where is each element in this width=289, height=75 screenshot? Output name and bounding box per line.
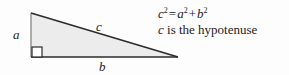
label-side-a: a: [13, 28, 20, 41]
theorem-text-block: c2=a2+b2 c is the hypotenuse: [158, 6, 289, 38]
equation-b-exponent: 2: [203, 6, 207, 15]
label-side-b: b: [99, 60, 106, 73]
pythagorean-theorem-figure: a b c c2=a2+b2 c is the hypotenuse: [0, 0, 289, 75]
hypotenuse-description: c is the hypotenuse: [158, 22, 289, 38]
right-angle-marker-icon: [32, 47, 42, 57]
equation-plus-sign: +: [188, 6, 197, 21]
label-side-c: c: [96, 20, 102, 33]
pythagorean-equation: c2=a2+b2: [158, 6, 289, 22]
description-text: is the hypotenuse: [164, 22, 258, 37]
equation-equals-sign: =: [168, 6, 177, 21]
